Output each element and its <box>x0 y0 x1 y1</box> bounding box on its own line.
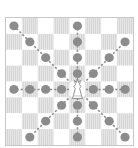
move-marker-c6[interactable] <box>41 53 50 62</box>
move-marker-a4[interactable] <box>9 85 18 94</box>
move-marker-e2[interactable] <box>73 117 82 126</box>
move-marker-d3[interactable] <box>57 101 66 110</box>
move-marker-b4[interactable] <box>25 85 34 94</box>
square-d6[interactable] <box>54 50 70 66</box>
move-marker-g2[interactable] <box>105 117 114 126</box>
square-g1[interactable] <box>101 129 117 145</box>
square-a1[interactable] <box>6 129 22 145</box>
square-c5[interactable] <box>38 66 54 82</box>
square-h8[interactable] <box>117 18 133 34</box>
move-marker-e1[interactable] <box>73 133 82 142</box>
move-marker-b1[interactable] <box>25 133 34 142</box>
chess-board <box>5 17 134 146</box>
move-marker-a8[interactable] <box>9 22 18 31</box>
square-h5[interactable] <box>117 66 133 82</box>
square-b3[interactable] <box>22 97 38 113</box>
move-marker-c4[interactable] <box>41 85 50 94</box>
square-d1[interactable] <box>54 129 70 145</box>
square-h6[interactable] <box>117 50 133 66</box>
board-svg <box>6 18 133 145</box>
square-d8[interactable] <box>54 18 70 34</box>
move-marker-f3[interactable] <box>89 101 98 110</box>
square-h2[interactable] <box>117 113 133 129</box>
square-g5[interactable] <box>101 66 117 82</box>
square-b2[interactable] <box>22 113 38 129</box>
square-b6[interactable] <box>22 50 38 66</box>
move-marker-g4[interactable] <box>105 85 114 94</box>
move-marker-f4[interactable] <box>89 85 98 94</box>
square-d2[interactable] <box>54 113 70 129</box>
square-f8[interactable] <box>85 18 101 34</box>
square-g3[interactable] <box>101 97 117 113</box>
move-marker-e3[interactable] <box>73 101 82 110</box>
square-d7[interactable] <box>54 34 70 50</box>
move-marker-d4[interactable] <box>57 85 66 94</box>
move-marker-e8[interactable] <box>73 22 82 31</box>
move-marker-h7[interactable] <box>120 37 129 46</box>
square-f1[interactable] <box>85 129 101 145</box>
move-marker-d5[interactable] <box>57 69 66 78</box>
square-a5[interactable] <box>6 66 22 82</box>
move-marker-e7[interactable] <box>73 37 82 46</box>
square-f2[interactable] <box>85 113 101 129</box>
square-b5[interactable] <box>22 66 38 82</box>
square-a7[interactable] <box>6 34 22 50</box>
move-marker-c2[interactable] <box>41 117 50 126</box>
square-f7[interactable] <box>85 34 101 50</box>
square-c8[interactable] <box>38 18 54 34</box>
square-a6[interactable] <box>6 50 22 66</box>
square-c1[interactable] <box>38 129 54 145</box>
square-g8[interactable] <box>101 18 117 34</box>
square-c7[interactable] <box>38 34 54 50</box>
square-b8[interactable] <box>22 18 38 34</box>
move-marker-h1[interactable] <box>120 133 129 142</box>
square-g7[interactable] <box>101 34 117 50</box>
square-f6[interactable] <box>85 50 101 66</box>
move-marker-b7[interactable] <box>25 37 34 46</box>
square-a2[interactable] <box>6 113 22 129</box>
square-a3[interactable] <box>6 97 22 113</box>
move-marker-h4[interactable] <box>120 85 129 94</box>
move-marker-g6[interactable] <box>105 53 114 62</box>
square-c3[interactable] <box>38 97 54 113</box>
square-h3[interactable] <box>117 97 133 113</box>
move-marker-f5[interactable] <box>89 69 98 78</box>
move-marker-e6[interactable] <box>73 53 82 62</box>
move-marker-e5[interactable] <box>73 69 82 78</box>
